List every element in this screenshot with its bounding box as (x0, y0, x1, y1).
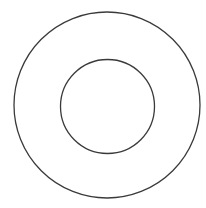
diagram-canvas (0, 0, 206, 208)
outer-circle (14, 12, 200, 198)
inner-circle (61, 60, 155, 154)
